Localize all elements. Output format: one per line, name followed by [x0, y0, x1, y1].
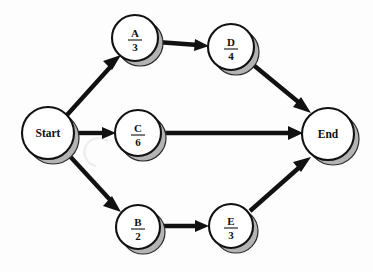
end-node[interactable]: End	[302, 108, 359, 165]
edge-c-to-end	[163, 126, 303, 140]
activity-node-b-letter: B	[134, 216, 142, 228]
activity-node-c[interactable]: C 6	[115, 110, 166, 161]
arrowhead-icon	[195, 220, 209, 232]
edge-start-to-a	[67, 55, 121, 115]
edge-start-to-b	[66, 152, 121, 212]
start-node[interactable]: Start	[22, 107, 79, 164]
arrowhead-icon	[103, 196, 121, 212]
activity-node-d-letter: D	[227, 36, 235, 48]
activity-node-b[interactable]: B 2	[116, 205, 165, 254]
edge-start-to-c	[75, 127, 116, 139]
edge-layer	[66, 39, 311, 232]
arrowhead-icon	[194, 39, 209, 51]
arrowhead-icon	[288, 126, 303, 140]
activity-node-b-duration: 2	[135, 230, 141, 242]
activity-node-e-duration: 3	[228, 229, 234, 241]
arrowhead-icon	[102, 127, 116, 139]
activity-node-a-duration: 3	[132, 41, 138, 53]
activity-network-diagram: Start A 3 D 4 C 6	[0, 0, 373, 272]
activity-node-d-duration: 4	[228, 50, 234, 62]
diagram-canvas: Start A 3 D 4 C 6	[0, 0, 373, 272]
activity-node-c-letter: C	[134, 122, 142, 134]
edge-a-to-d	[157, 39, 209, 51]
arrowhead-icon	[103, 55, 121, 70]
activity-node-d[interactable]: D 4	[208, 24, 259, 75]
end-node-label: End	[318, 128, 339, 140]
activity-node-a-letter: A	[131, 27, 139, 39]
start-node-label: Start	[36, 127, 61, 139]
activity-node-e-letter: E	[227, 215, 234, 227]
edge-b-to-e	[160, 220, 209, 232]
edge-d-to-end	[251, 63, 311, 113]
activity-node-c-duration: 6	[135, 136, 141, 148]
activity-node-a[interactable]: A 3	[112, 15, 163, 66]
edge-e-to-end	[250, 157, 311, 211]
scan-artifact-arc	[84, 138, 108, 166]
